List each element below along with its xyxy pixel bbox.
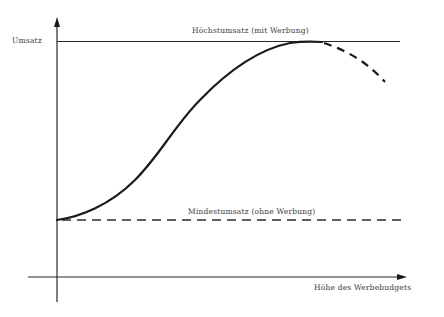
max-revenue-label: Höchstumsatz (mit Werbung) xyxy=(192,26,309,35)
advertising-response-diagram xyxy=(0,0,444,317)
revenue-curve xyxy=(57,42,322,220)
y-axis-label: Umsatz xyxy=(12,36,42,45)
x-axis-arrow-icon xyxy=(397,274,407,280)
revenue-decline-curve xyxy=(324,43,385,82)
y-axis-arrow-icon xyxy=(54,17,60,27)
x-axis-label: Höhe des Werbebudgets xyxy=(314,283,411,292)
min-revenue-label: Mindestumsatz (ohne Werbung) xyxy=(188,207,315,216)
